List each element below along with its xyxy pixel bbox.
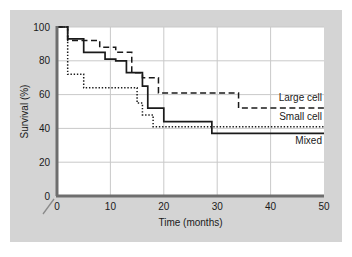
legend-label-small-cell: Small cell	[279, 111, 322, 122]
figure-panel: 02040608010001020304050Time (months)Surv…	[10, 10, 342, 242]
y-tick-label: 0	[44, 191, 50, 202]
y-tick-label: 100	[33, 22, 50, 33]
survival-chart: 02040608010001020304050Time (months)Surv…	[10, 10, 342, 242]
x-tick-label: 30	[212, 201, 224, 212]
y-tick-label: 20	[39, 157, 51, 168]
x-tick-label: 10	[105, 201, 117, 212]
x-tick-label: 40	[265, 201, 277, 212]
x-axis-title: Time (months)	[158, 217, 222, 228]
y-tick-label: 40	[39, 123, 51, 134]
y-tick-label: 60	[39, 89, 51, 100]
x-tick-label: 50	[318, 201, 330, 212]
y-axis-title: Survival (%)	[19, 85, 30, 139]
legend-label-large-cell: Large cell	[279, 92, 322, 103]
y-tick-label: 80	[39, 55, 51, 66]
x-tick-label: 0	[54, 201, 60, 212]
legend-label-mixed: Mixed	[295, 135, 322, 146]
x-tick-label: 20	[158, 201, 170, 212]
